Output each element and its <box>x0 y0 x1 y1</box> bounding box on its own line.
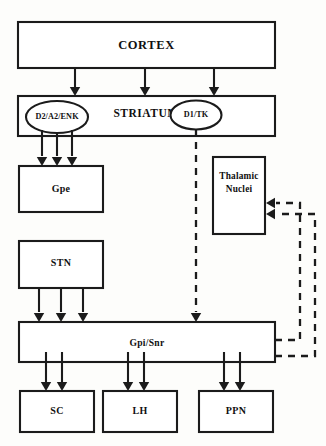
node-lh[interactable]: LH <box>103 391 177 432</box>
node-stn[interactable]: STN <box>19 241 103 288</box>
diagram-canvas: CORTEX STRIATUM D2/A2/ENK D1/TK <box>0 0 326 446</box>
thalamic-label-line2: Nuclei <box>226 184 253 194</box>
edge-stn-to-gpi <box>34 288 88 322</box>
thalamic-label-line1: Thalamic <box>219 171 258 181</box>
cortex-label: CORTEX <box>118 38 175 52</box>
striatum-label: STRIATUM <box>113 107 178 119</box>
edge-cortex-to-striatum <box>70 68 219 96</box>
basal-ganglia-diagram: CORTEX STRIATUM D2/A2/ENK D1/TK <box>0 0 326 446</box>
edge-d2-to-gpe <box>37 130 77 166</box>
node-sc[interactable]: SC <box>20 391 94 432</box>
node-d2-a2-enk[interactable]: D2/A2/ENK <box>26 101 88 133</box>
gpe-label: Gpe <box>52 183 71 194</box>
gpi-snr-label: Gpi/Snr <box>129 337 165 348</box>
sc-label: SC <box>50 405 64 416</box>
d2-ellipse-label: D2/A2/ENK <box>35 112 79 121</box>
node-d1-tk[interactable]: D1/TK <box>171 101 222 130</box>
node-ppn[interactable]: PPN <box>199 391 273 432</box>
ppn-label: PPN <box>226 405 247 416</box>
thalamic-box <box>213 157 265 234</box>
lh-label: LH <box>132 405 147 416</box>
node-cortex[interactable]: CORTEX <box>18 22 275 68</box>
d1-ellipse-label: D1/TK <box>184 110 209 119</box>
node-gpi-snr[interactable]: Gpi/Snr <box>19 322 275 362</box>
node-gpe[interactable]: Gpe <box>19 166 103 212</box>
edge-gpi-to-thalamic-inner <box>266 198 300 340</box>
edge-d1-to-gpi <box>191 129 201 322</box>
stn-label: STN <box>51 257 72 268</box>
node-thalamic-nuclei[interactable]: Thalamic Nuclei <box>213 157 265 234</box>
